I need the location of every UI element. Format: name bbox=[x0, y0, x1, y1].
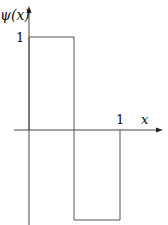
x-tick-label-1: 1 bbox=[116, 112, 124, 127]
y-tick-label-1: 1 bbox=[16, 30, 24, 45]
x-axis-label: x bbox=[141, 112, 149, 127]
haar-wavelet-plot: ψ(x) x 1 1 bbox=[0, 0, 168, 225]
x-axis-arrow-icon bbox=[156, 128, 163, 133]
wavelet-curve bbox=[29, 37, 120, 220]
y-axis-label: ψ(x) bbox=[0, 7, 30, 23]
